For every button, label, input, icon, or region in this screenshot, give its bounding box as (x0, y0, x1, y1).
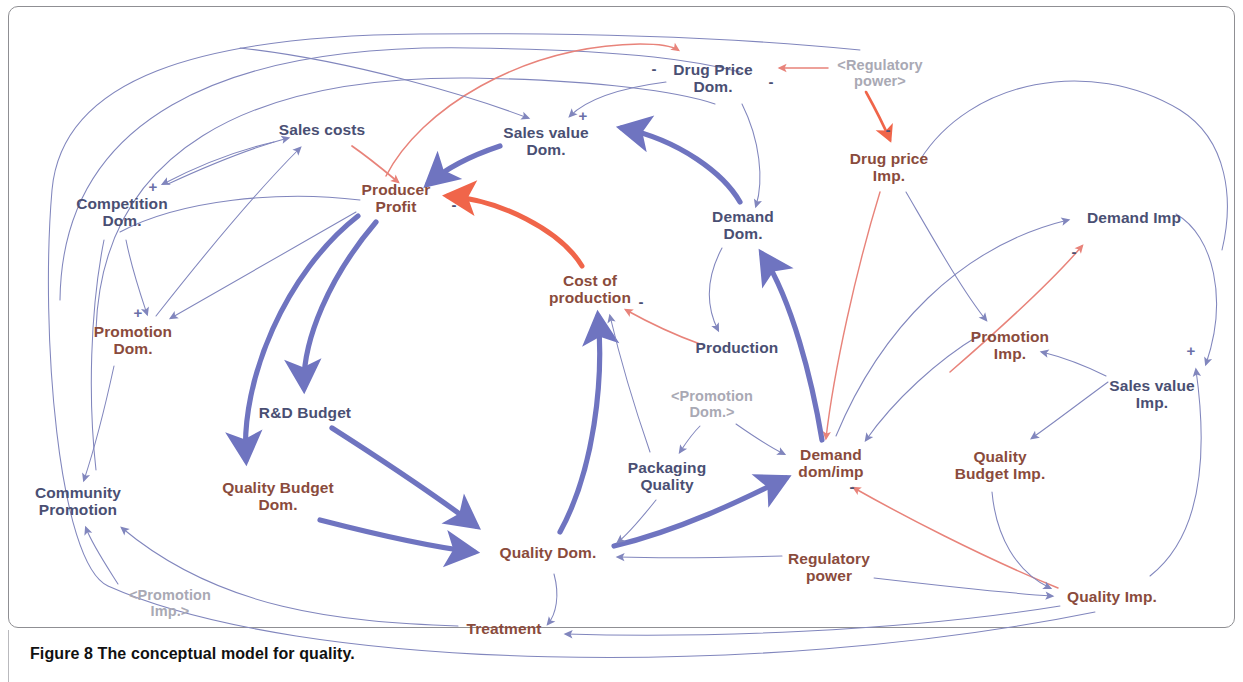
node-regulatory-power[interactable]: Regulatory power (788, 550, 870, 585)
node-promotion-imp[interactable]: Promotion Imp. (971, 328, 1049, 363)
node-sales-value-imp[interactable]: Sales value Imp. (1109, 377, 1195, 412)
node-drug-price-dom[interactable]: Drug Price Dom. (673, 61, 752, 96)
polarity-producer-profit: - (452, 197, 457, 212)
node-promotion-dom-ref[interactable]: <Promotion Dom.> (671, 388, 753, 420)
node-treatment[interactable]: Treatment (467, 620, 542, 637)
caption-text: The conceptual model for quality. (93, 645, 355, 662)
node-regulatory-power-ref[interactable]: <Regulatory power> (837, 57, 922, 89)
node-competition-dom[interactable]: Competition Dom. (76, 195, 168, 230)
figure-border (8, 6, 1235, 628)
figure-caption: Figure 8 The conceptual model for qualit… (30, 645, 355, 663)
polarity-competition-promotion: + (134, 305, 143, 320)
polarity-sales-value-imp: + (1187, 343, 1196, 358)
node-quality-budget-dom[interactable]: Quality Budget Dom. (222, 479, 334, 514)
polarity-drugprice-imp: - (886, 122, 891, 137)
polarity-demand-dom-imp: - (850, 479, 855, 494)
polarity-demand-imp: - (1072, 244, 1077, 259)
node-sales-value-dom[interactable]: Sales value Dom. (503, 124, 589, 159)
node-packaging-quality[interactable]: Packaging Quality (628, 459, 706, 494)
node-rd-budget[interactable]: R&D Budget (259, 404, 351, 421)
caption-label: Figure 8 (30, 645, 93, 662)
polarity-drugprice-dom-right: - (769, 74, 774, 89)
node-promotion-dom[interactable]: Promotion Dom. (94, 323, 172, 358)
node-cost-of-production[interactable]: Cost of production (549, 272, 631, 307)
node-quality-imp[interactable]: Quality Imp. (1067, 588, 1157, 605)
node-demand-imp[interactable]: Demand Imp (1087, 209, 1181, 226)
node-drug-price-imp[interactable]: Drug price Imp. (850, 150, 929, 185)
node-quality-budget-imp[interactable]: Quality Budget Imp. (955, 448, 1046, 483)
figure-canvas: Competition Dom. Sales costs Producer Pr… (0, 0, 1243, 682)
node-promotion-imp-ref[interactable]: <Promotion Imp.> (129, 587, 211, 619)
node-demand-dom-imp[interactable]: Demand dom/imp (798, 446, 863, 481)
node-producer-profit[interactable]: Producer Profit (362, 181, 431, 216)
node-quality-dom[interactable]: Quality Dom. (500, 544, 597, 561)
node-community-promotion[interactable]: Community Promotion (35, 484, 121, 519)
node-sales-costs[interactable]: Sales costs (279, 121, 365, 138)
polarity-salesvalue-dom: + (579, 108, 588, 123)
polarity-competition-salescosts: + (149, 179, 158, 194)
node-demand-dom[interactable]: Demand Dom. (712, 208, 774, 243)
polarity-cost-of-production: - (639, 294, 644, 309)
node-production[interactable]: Production (696, 339, 779, 356)
page-gutter-rule (8, 630, 9, 682)
polarity-drugprice-dom-left: - (652, 61, 657, 76)
